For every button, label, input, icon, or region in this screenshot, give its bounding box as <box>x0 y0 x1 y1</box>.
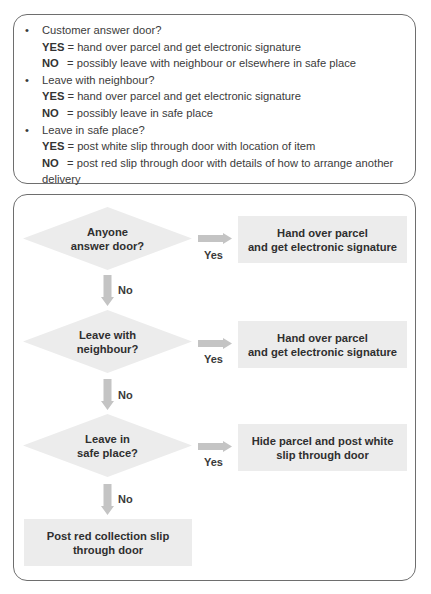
no-key: NO <box>42 105 64 122</box>
summary-yes-2: YES = hand over parcel and get electroni… <box>25 88 393 105</box>
yes-text: = hand over parcel and get electronic si… <box>68 90 302 102</box>
decision-line: answer door? <box>23 239 192 253</box>
outcome-hide-parcel: Hide parcel and post whiteslip through d… <box>238 424 407 471</box>
question-text: Leave in safe place? <box>42 124 145 136</box>
arrow-down-icon <box>101 275 114 306</box>
question-text: Customer answer door? <box>42 24 161 36</box>
summary-yes-3: YES = post white slip through door with … <box>25 138 393 155</box>
bullet-icon: • <box>25 22 29 39</box>
summary-no-1: NO = possibly leave with neighbour or el… <box>25 55 393 72</box>
outcome-line: Hide parcel and post white <box>252 434 394 448</box>
yes-key: YES <box>42 88 64 105</box>
summary-no-3-continuation: delivery <box>25 171 393 188</box>
decision-line: neighbour? <box>23 342 192 356</box>
summary-list: •Customer answer door? YES = hand over p… <box>25 22 393 188</box>
decision-line: Anyone <box>23 225 192 239</box>
no-text: = possibly leave with neighbour or elsew… <box>67 57 356 69</box>
yes-label: Yes <box>204 249 223 261</box>
yes-text: = hand over parcel and get electronic si… <box>68 41 302 53</box>
outcome-hand-over-parcel-2: Hand over parceland get electronic signa… <box>238 321 407 368</box>
outcome-line: Hand over parcel <box>248 331 397 345</box>
outcome-line: and get electronic signature <box>248 345 397 359</box>
no-text: = possibly leave in safe place <box>67 107 213 119</box>
decision-leave-in-safe-place: Leave insafe place? <box>23 414 192 477</box>
yes-label: Yes <box>204 456 223 468</box>
decision-line: Leave with <box>23 328 192 342</box>
summary-question-1: •Customer answer door? <box>25 22 393 39</box>
outcome-line: slip through door <box>252 448 394 462</box>
no-label: No <box>118 493 133 505</box>
no-key: NO <box>42 155 64 172</box>
outcome-hand-over-parcel-1: Hand over parceland get electronic signa… <box>238 216 407 263</box>
no-key: NO <box>42 55 64 72</box>
summary-question-2: •Leave with neighbour? <box>25 72 393 89</box>
no-label: No <box>118 284 133 296</box>
decision-label: Leave withneighbour? <box>23 328 192 356</box>
outcome-line: through door <box>47 543 169 557</box>
decision-label: Leave insafe place? <box>23 432 192 460</box>
decision-anyone-answer-door: Anyoneanswer door? <box>23 207 192 270</box>
yes-key: YES <box>42 138 64 155</box>
yes-key: YES <box>42 39 64 56</box>
outcome-post-red-slip: Post red collection slipthrough door <box>24 519 192 566</box>
outcome-line: Post red collection slip <box>47 529 169 543</box>
decision-leave-with-neighbour: Leave withneighbour? <box>23 310 192 373</box>
summary-no-2: NO = possibly leave in safe place <box>25 105 393 122</box>
arrow-right-icon <box>198 338 232 349</box>
summary-yes-1: YES = hand over parcel and get electroni… <box>25 39 393 56</box>
outcome-line: and get electronic signature <box>248 240 397 254</box>
decision-line: Leave in <box>23 432 192 446</box>
question-text: Leave with neighbour? <box>42 74 155 86</box>
arrow-right-icon <box>198 233 232 244</box>
arrow-down-icon <box>101 379 114 410</box>
bullet-icon: • <box>25 122 29 139</box>
summary-question-3: •Leave in safe place? <box>25 122 393 139</box>
decision-line: safe place? <box>23 446 192 460</box>
decision-label: Anyoneanswer door? <box>23 225 192 253</box>
outcome-line: Hand over parcel <box>248 226 397 240</box>
no-text: = post red slip through door with detail… <box>67 157 393 169</box>
arrow-down-icon <box>101 484 114 515</box>
yes-text: = post white slip through door with loca… <box>68 140 316 152</box>
bullet-icon: • <box>25 72 29 89</box>
arrow-right-icon <box>198 441 232 452</box>
summary-no-3: NO = post red slip through door with det… <box>25 155 393 172</box>
yes-label: Yes <box>204 353 223 365</box>
no-label: No <box>118 389 133 401</box>
